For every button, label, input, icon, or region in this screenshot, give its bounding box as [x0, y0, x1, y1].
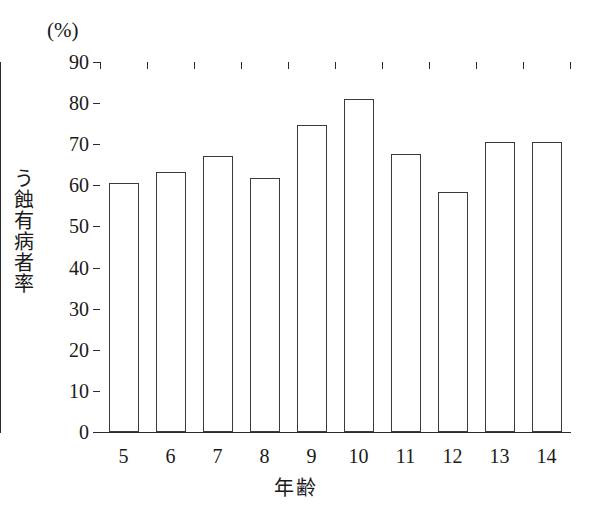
x-tick-mark: [100, 62, 101, 69]
x-tick-mark: [570, 62, 571, 69]
x-tick-label: 5: [119, 446, 129, 466]
y-tick-mark: [93, 350, 100, 351]
x-tick-label: 9: [307, 446, 317, 466]
bar: [250, 178, 280, 432]
y-tick-label: 0: [79, 422, 89, 442]
x-tick-mark: [476, 62, 477, 69]
y-tick-mark: [93, 144, 100, 145]
y-tick-label: 40: [69, 258, 89, 278]
bar: [203, 156, 233, 432]
x-tick-mark: [194, 62, 195, 69]
y-tick-label: 70: [69, 134, 89, 154]
x-tick-mark: [335, 62, 336, 69]
y-tick-label: 60: [69, 175, 89, 195]
x-tick-mark: [382, 62, 383, 69]
y-tick-mark: [93, 62, 100, 63]
bar: [156, 172, 186, 432]
y-tick-label: 30: [69, 299, 89, 319]
y-tick-mark: [93, 391, 100, 392]
plot-area: 0102030405060708090: [100, 62, 570, 432]
x-tick-mark: [523, 62, 524, 69]
bar: [532, 142, 562, 432]
y-tick-label: 20: [69, 340, 89, 360]
y-tick-mark: [93, 268, 100, 269]
x-tick-label: 11: [396, 446, 415, 466]
x-tick-label: 7: [213, 446, 223, 466]
y-tick-mark: [93, 103, 100, 104]
x-tick-label: 10: [349, 446, 369, 466]
x-tick-label: 13: [490, 446, 510, 466]
y-axis-unit-label: (%): [47, 20, 78, 41]
bar: [391, 154, 421, 432]
y-axis-title: う蝕有病者率: [8, 168, 34, 294]
bar: [344, 99, 374, 432]
x-tick-label: 12: [443, 446, 463, 466]
y-tick-mark: [93, 185, 100, 186]
caries-prevalence-bar-chart: (%) う蝕有病者率 0102030405060708090 567891011…: [0, 0, 592, 516]
x-axis-title: 年齢: [0, 478, 592, 498]
x-tick-label: 14: [537, 446, 557, 466]
y-tick-label: 80: [69, 93, 89, 113]
y-tick-mark: [93, 432, 100, 433]
y-tick-mark: [93, 309, 100, 310]
x-axis-line: [100, 432, 571, 433]
bar: [438, 192, 468, 432]
x-tick-mark: [429, 62, 430, 69]
x-tick-label: 8: [260, 446, 270, 466]
y-tick-mark: [93, 226, 100, 227]
y-tick-label: 10: [69, 381, 89, 401]
bar: [297, 125, 327, 433]
x-tick-label: 6: [166, 446, 176, 466]
bar: [109, 183, 139, 432]
bar: [485, 142, 515, 432]
x-tick-mark: [288, 62, 289, 69]
x-tick-mark: [147, 62, 148, 69]
y-axis-line: [0, 62, 1, 433]
y-tick-label: 90: [69, 52, 89, 72]
x-tick-mark: [241, 62, 242, 69]
y-tick-label: 50: [69, 216, 89, 236]
